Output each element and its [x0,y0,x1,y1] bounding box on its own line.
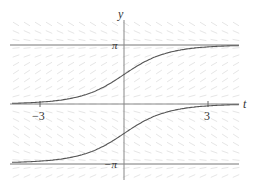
slope-field-chart: y t π −π −3 3 [0,0,259,188]
t-axis-label: t [243,97,247,111]
neg-pi-label: −π [104,158,117,170]
tick-label-3: 3 [204,109,210,123]
tick-label-neg3: −3 [32,109,45,123]
upper-solution-curve [12,46,239,104]
pi-label: π [112,39,118,51]
y-axis-label: y [117,7,124,21]
